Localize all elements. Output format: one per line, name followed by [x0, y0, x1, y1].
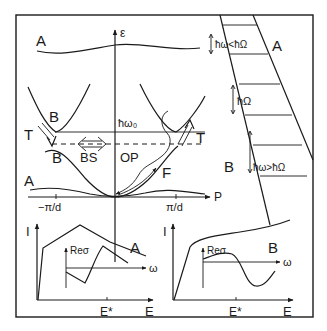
epsilon-axis-label: ε: [120, 26, 126, 40]
iv-panel-A: I E E* A Reσ ω: [26, 224, 158, 319]
label-A-top: A: [36, 32, 46, 49]
iv-A-inset-x-label: ω: [149, 262, 158, 274]
iv-A-inset-y-label: Reσ: [70, 245, 90, 256]
iv-B-curve-label: B: [268, 239, 278, 256]
ladder-right-edge: [253, 15, 313, 160]
field-acceleration-arrow: [118, 168, 156, 195]
label-B-lower: B: [52, 149, 62, 166]
tick-left-label: −π/d: [38, 201, 61, 213]
label-OP: OP: [120, 150, 139, 165]
label-hw0: ħω₀: [118, 117, 137, 129]
label-T-left: T: [24, 126, 33, 143]
iv-B-curve: [174, 220, 290, 300]
label-F: F: [162, 164, 171, 181]
iv-A-y-label: I: [26, 224, 30, 239]
iv-A-x-label: E: [145, 304, 154, 319]
ladder-label-A: A: [272, 37, 282, 54]
gap-top-label: ħω<ħΩ: [215, 39, 248, 50]
tick-right-label: π/d: [166, 201, 183, 213]
dispersion-panel: ε P −π/d π/d A A B B ħω₀ BS OP: [24, 26, 222, 262]
ladder-label-B: B: [224, 158, 234, 175]
physics-diagram: ε P −π/d π/d A A B B ħω₀ BS OP: [0, 0, 327, 331]
band-B-upper-right: [140, 84, 205, 132]
iv-A-tick-label: E*: [100, 305, 113, 319]
iv-B-tick-label: E*: [229, 305, 242, 319]
iv-A-curve-label: A: [130, 239, 140, 256]
label-T-right: T: [196, 129, 205, 146]
gap-mid-label: ħΩ: [237, 95, 251, 107]
label-A-bottom: A: [24, 172, 34, 189]
iv-A-curve: [38, 225, 146, 300]
gap-bottom-label: ħω>ħΩ: [253, 162, 286, 173]
ladder-panel: ħω<ħΩ A ħΩ ħω>ħΩ B: [209, 15, 313, 225]
band-A-top-curve: [37, 44, 200, 53]
iv-B-y-label: I: [163, 224, 167, 239]
momentum-axis-label: P: [214, 190, 222, 204]
tunneling-arrow-left: [38, 123, 56, 146]
iv-panel-B: I E E* B Reσ ω: [163, 220, 293, 319]
iv-B-inset-curve: [203, 253, 275, 286]
iv-B-inset-x-label: ω: [283, 256, 292, 268]
label-B-upper: B: [49, 108, 59, 125]
iv-B-x-label: E: [283, 304, 292, 319]
label-BS: BS: [80, 150, 98, 165]
